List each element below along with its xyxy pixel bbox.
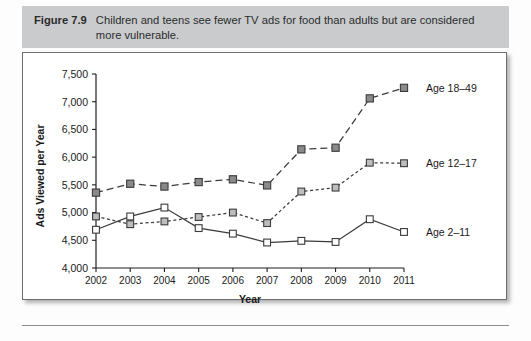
data-point-marker <box>127 180 134 187</box>
x-axis-tick-label: 2010 <box>359 275 382 286</box>
x-axis: 2002200320042005200620072008200920102011 <box>85 268 415 286</box>
data-point-marker <box>298 188 305 195</box>
y-axis-tick-label: 5,500 <box>62 179 88 191</box>
series-line-2 <box>96 163 404 225</box>
y-axis: 4,0004,5005,0005,5006,0006,5007,0007,500 <box>62 68 96 274</box>
y-axis-tick-label: 4,500 <box>62 234 88 246</box>
data-point-marker <box>332 144 339 151</box>
data-point-marker <box>332 239 339 246</box>
data-point-marker <box>229 209 236 216</box>
data-point-marker <box>195 214 202 221</box>
data-point-marker <box>401 160 408 167</box>
data-point-marker <box>93 226 100 233</box>
x-axis-tick-label: 2003 <box>119 275 142 286</box>
x-axis-tick-label: 2005 <box>188 275 211 286</box>
y-axis-title: Ads Viewed per Year <box>34 125 46 228</box>
chart-legend: Age 18–49Age 12–17Age 2–11 <box>426 82 477 238</box>
data-point-marker <box>366 159 373 166</box>
data-point-marker <box>195 178 202 185</box>
x-axis-tick-label: 2009 <box>324 275 347 286</box>
x-axis-tick-label: 2004 <box>153 275 176 286</box>
data-point-marker <box>161 204 168 211</box>
data-point-marker <box>229 176 236 183</box>
data-point-marker <box>264 239 271 246</box>
data-point-marker <box>161 218 168 225</box>
x-axis-tick-label: 2006 <box>222 275 245 286</box>
y-axis-tick-label: 6,500 <box>62 123 88 135</box>
legend-label-3: Age 2–11 <box>426 226 470 238</box>
data-point-marker <box>298 237 305 244</box>
data-point-marker <box>298 146 305 153</box>
data-point-marker <box>366 95 373 102</box>
y-axis-tick-label: 6,000 <box>62 151 88 163</box>
data-point-marker <box>401 229 408 236</box>
data-point-marker <box>264 182 271 189</box>
data-series-group <box>92 84 407 246</box>
y-axis-tick-label: 7,500 <box>62 68 88 80</box>
data-point-marker <box>127 221 134 228</box>
x-axis-title: Year <box>239 293 261 305</box>
x-axis-tick-label: 2008 <box>290 275 313 286</box>
data-point-marker <box>400 84 407 91</box>
x-axis-tick-label: 2007 <box>256 275 279 286</box>
figure-container: Figure 7.9 Children and teens see fewer … <box>0 0 531 341</box>
legend-label-2: Age 12–17 <box>426 157 477 169</box>
data-point-marker <box>93 213 100 220</box>
data-point-marker <box>195 225 202 232</box>
series-line-1 <box>96 88 404 193</box>
line-chart: 4,0004,5005,0005,5006,0006,5007,0007,500… <box>0 0 531 341</box>
legend-label-1: Age 18–49 <box>426 82 477 94</box>
y-axis-tick-label: 4,000 <box>62 262 88 274</box>
data-point-marker <box>161 183 168 190</box>
data-point-marker <box>332 184 339 191</box>
x-axis-tick-label: 2002 <box>85 275 108 286</box>
data-point-marker <box>127 213 134 220</box>
y-axis-tick-label: 5,000 <box>62 206 88 218</box>
data-point-marker <box>264 220 271 227</box>
series-line-3 <box>96 208 404 243</box>
data-point-marker <box>92 189 99 196</box>
data-point-marker <box>366 216 373 223</box>
data-point-marker <box>229 230 236 237</box>
x-axis-tick-label: 2011 <box>393 275 415 286</box>
y-axis-tick-label: 7,000 <box>62 96 88 108</box>
